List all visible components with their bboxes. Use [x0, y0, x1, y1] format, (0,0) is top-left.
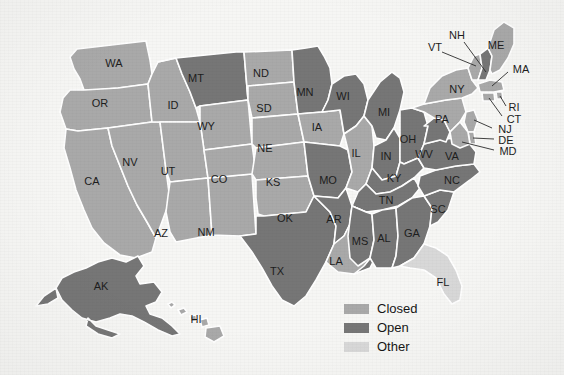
state-label-CA: CA: [84, 175, 100, 187]
state-label-MS: MS: [352, 235, 369, 247]
state-RI[interactable]: [496, 92, 503, 99]
state-label-WV: WV: [415, 148, 433, 160]
state-label-MN: MN: [296, 86, 313, 98]
state-CT[interactable]: [482, 93, 495, 101]
state-label-MI: MI: [378, 106, 390, 118]
state-label-KY: KY: [387, 172, 402, 184]
legend-swatch-closed: [344, 304, 369, 314]
state-HI-island-2[interactable]: [178, 308, 187, 315]
legend-label-open: Open: [377, 321, 409, 334]
state-label-MT: MT: [188, 72, 204, 84]
state-label-VA: VA: [445, 150, 460, 162]
state-HI-island-5[interactable]: [205, 326, 224, 342]
state-label-OH: OH: [400, 133, 417, 145]
state-label-CO: CO: [211, 173, 228, 185]
state-label-PA: PA: [435, 113, 450, 125]
state-label-ME: ME: [488, 39, 505, 51]
state-label-AZ: AZ: [154, 227, 168, 239]
state-label-KS: KS: [266, 176, 281, 188]
state-label-AR: AR: [326, 213, 341, 225]
us-status-map-figure: WA OR CA NV ID MT WY UT AZ NM CO ND SD N…: [0, 0, 564, 375]
state-label-WA: WA: [105, 57, 123, 69]
state-label-WI: WI: [336, 90, 349, 102]
state-MA[interactable]: [478, 80, 504, 92]
legend-item-other[interactable]: Other: [344, 337, 417, 356]
state-label-HI: HI: [191, 313, 202, 325]
state-label-MA: MA: [513, 63, 530, 75]
state-label-GA: GA: [404, 227, 421, 239]
state-label-TN: TN: [379, 194, 394, 206]
state-label-SC: SC: [430, 203, 445, 215]
state-label-MD: MD: [499, 145, 516, 157]
state-label-LA: LA: [329, 255, 343, 267]
legend-swatch-other: [344, 342, 369, 352]
state-label-ID: ID: [168, 99, 179, 111]
state-label-NM: NM: [197, 226, 214, 238]
state-label-RI: RI: [509, 101, 520, 113]
state-label-VT: VT: [428, 41, 442, 53]
legend-label-other: Other: [377, 340, 410, 353]
state-label-IA: IA: [312, 121, 323, 133]
state-label-NC: NC: [444, 174, 460, 186]
state-AK[interactable]: [36, 256, 180, 338]
state-label-NV: NV: [122, 156, 138, 168]
state-label-OK: OK: [277, 212, 294, 224]
state-label-TX: TX: [270, 265, 285, 277]
legend-label-closed: Closed: [377, 302, 417, 315]
leader-line-DE: [473, 138, 494, 139]
state-label-AK: AK: [94, 280, 109, 292]
state-label-AL: AL: [377, 232, 390, 244]
state-label-FL: FL: [437, 276, 450, 288]
legend-swatch-open: [344, 323, 369, 333]
state-label-OR: OR: [92, 97, 109, 109]
legend-item-open[interactable]: Open: [344, 318, 417, 337]
state-label-NY: NY: [449, 83, 465, 95]
us-map: WA OR CA NV ID MT WY UT AZ NM CO ND SD N…: [0, 0, 564, 375]
state-label-SD: SD: [256, 102, 271, 114]
state-label-IN: IN: [381, 150, 392, 162]
state-label-NE: NE: [257, 142, 272, 154]
state-label-ND: ND: [253, 67, 269, 79]
state-label-WY: WY: [197, 120, 215, 132]
state-label-UT: UT: [161, 165, 176, 177]
state-label-IL: IL: [351, 147, 360, 159]
legend: Closed Open Other: [344, 299, 417, 356]
state-label-NH: NH: [449, 29, 465, 41]
state-HI-island-1[interactable]: [168, 302, 175, 308]
leader-line-VT: [442, 52, 476, 66]
legend-item-closed[interactable]: Closed: [344, 299, 417, 318]
state-label-MO: MO: [319, 174, 337, 186]
